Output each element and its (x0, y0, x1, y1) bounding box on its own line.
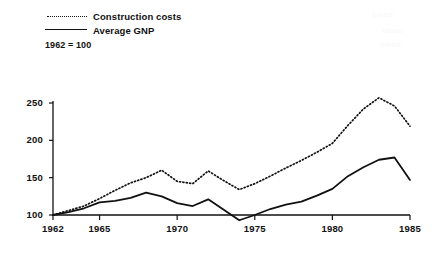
x-axis-tick-label: 1975 (238, 223, 272, 234)
series-line-construction-costs (53, 98, 410, 215)
y-axis-tick-label: 250 (17, 97, 43, 108)
x-axis-tick-label: 1970 (160, 223, 194, 234)
x-axis-tick-label: 1965 (83, 223, 117, 234)
x-axis-tick-label: 1985 (393, 223, 427, 234)
y-axis-tick-label: 200 (17, 134, 43, 145)
chart-plot-area (0, 0, 433, 254)
y-axis-tick-label: 100 (17, 209, 43, 220)
x-axis-tick-label: 1980 (315, 223, 349, 234)
axes (53, 101, 410, 215)
x-axis-tick-label: 1962 (36, 223, 70, 234)
y-axis-tick-label: 150 (17, 172, 43, 183)
chart-figure: Construction costs Average GNP 1962 = 10… (0, 0, 433, 254)
series-layer (53, 98, 410, 220)
series-line-average-gnp (53, 158, 410, 221)
